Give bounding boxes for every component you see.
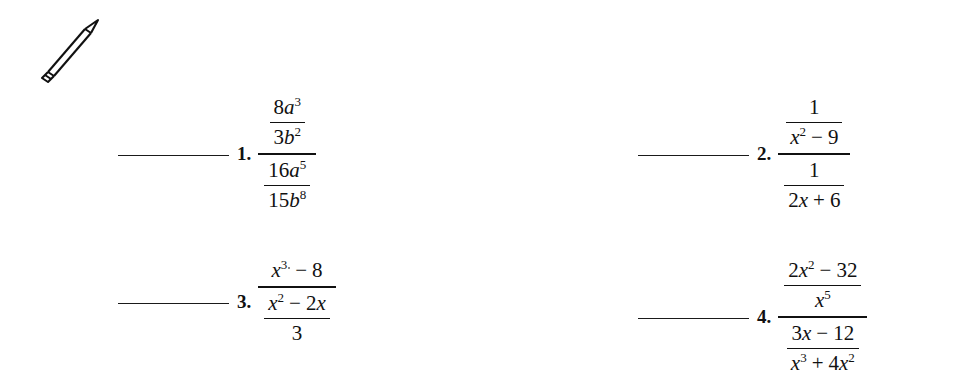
answer-blank-2[interactable] xyxy=(638,155,749,156)
complex-numerator-4: 2x2−32 x5 xyxy=(778,258,867,313)
inner-fraction: 2x2−32 x5 xyxy=(784,258,861,313)
inner-fraction: x2−2x 3 xyxy=(264,291,330,346)
inner-fraction: 8a3 3b2 xyxy=(270,95,306,150)
fraction-denominator: 3b2 xyxy=(270,125,306,150)
fraction-denominator: x3+4x2 xyxy=(787,351,859,374)
inner-fraction: 1 2x+6 xyxy=(784,158,844,213)
complex-numerator-3: x3−8 xyxy=(261,258,332,283)
expression-1: 8a3 3b2 16a5 15b8 xyxy=(258,95,316,213)
problem-2: 2. 1 x2−9 1 2x+6 xyxy=(638,95,850,213)
fraction-numerator: 1 xyxy=(805,158,824,183)
answer-blank-3[interactable] xyxy=(118,303,229,304)
expression-3: x3−8 x2−2x 3 xyxy=(258,258,336,346)
complex-denominator-2: 1 2x+6 xyxy=(778,158,850,213)
problem-number-3: 3. xyxy=(237,292,251,311)
fraction-denominator: 2x+6 xyxy=(784,188,844,213)
complex-denominator-4: 3x−12 x3+4x2 xyxy=(781,321,865,374)
problem-number-2: 2. xyxy=(757,144,771,163)
numerator-expression: x3−8 xyxy=(267,258,326,283)
complex-numerator-1: 8a3 3b2 xyxy=(264,95,312,150)
main-fraction-bar-1 xyxy=(258,153,316,155)
inner-fraction: 3x−12 x3+4x2 xyxy=(787,321,859,374)
complex-denominator-3: x2−2x 3 xyxy=(258,291,336,346)
fraction-bar xyxy=(786,122,842,123)
inner-fraction: 1 x2−9 xyxy=(786,95,842,150)
fraction-bar xyxy=(787,348,859,349)
fraction-bar xyxy=(270,122,306,123)
pencil-icon xyxy=(36,12,108,84)
problem-1: 1. 8a3 3b2 16a5 15b8 xyxy=(118,95,316,213)
problem-number-4: 4. xyxy=(757,307,771,326)
fraction-bar xyxy=(784,285,861,286)
fraction-numerator: 16a5 xyxy=(264,158,310,183)
fraction-denominator: x2−9 xyxy=(786,125,842,150)
fraction-denominator: 3 xyxy=(288,321,307,346)
main-fraction-bar-3 xyxy=(258,286,336,288)
fraction-denominator: 15b8 xyxy=(264,188,310,213)
main-fraction-bar-4 xyxy=(778,316,867,318)
inner-fraction: 16a5 15b8 xyxy=(264,158,310,213)
answer-blank-1[interactable] xyxy=(118,155,229,156)
fraction-numerator: 8a3 xyxy=(270,95,306,120)
fraction-bar xyxy=(264,318,330,319)
fraction-bar xyxy=(264,185,310,186)
problem-3: 3. x3−8 x2−2x 3 xyxy=(118,258,336,346)
complex-numerator-2: 1 x2−9 xyxy=(780,95,848,150)
fraction-numerator: x2−2x xyxy=(264,291,330,316)
expression-4: 2x2−32 x5 3x−12 x3+4x2 xyxy=(778,258,867,374)
problem-4: 4. 2x2−32 x5 3x−12 x3+4x2 xyxy=(638,258,867,374)
main-fraction-bar-2 xyxy=(778,153,850,155)
answer-blank-4[interactable] xyxy=(638,318,749,319)
fraction-numerator: 1 xyxy=(805,95,824,120)
fraction-denominator: x5 xyxy=(811,288,835,313)
expression-2: 1 x2−9 1 2x+6 xyxy=(778,95,850,213)
complex-denominator-1: 16a5 15b8 xyxy=(258,158,316,213)
fraction-bar xyxy=(784,185,844,186)
fraction-numerator: 3x−12 xyxy=(788,321,859,346)
fraction-numerator: 2x2−32 xyxy=(784,258,861,283)
problem-number-1: 1. xyxy=(237,144,251,163)
